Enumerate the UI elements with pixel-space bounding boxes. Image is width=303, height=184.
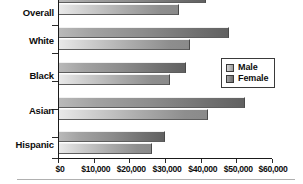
y-axis-tick — [52, 53, 58, 54]
earnings-bar-chart: Overall White Black Asian Hispanic $0 $1… — [0, 0, 303, 184]
legend-label-male: Male — [238, 63, 258, 72]
y-axis-tick — [52, 137, 58, 138]
bar-overall-male — [59, 4, 179, 15]
y-axis-tick — [52, 81, 58, 82]
x-axis-tick — [272, 159, 273, 163]
bar-asian-male — [59, 109, 208, 120]
x-axis-label-20000: $20,000 — [117, 165, 146, 174]
bar-white-male — [59, 39, 190, 50]
chart-legend: Male Female — [221, 58, 275, 88]
x-axis-tick — [236, 159, 237, 163]
bar-white-female — [59, 27, 229, 38]
legend-label-female: Female — [238, 74, 268, 83]
category-label-asian: Asian — [29, 106, 54, 116]
legend-item-female: Female — [226, 73, 268, 84]
category-label-hispanic: Hispanic — [16, 140, 54, 150]
legend-item-male: Male — [226, 62, 268, 73]
y-axis-tick — [52, 25, 58, 26]
x-axis-label-0: $0 — [56, 165, 65, 174]
x-axis-label-60000: $60,000 — [259, 165, 288, 174]
x-axis-label-40000: $40,000 — [188, 165, 217, 174]
category-label-overall: Overall — [23, 8, 54, 18]
x-axis-label-50000: $50,000 — [224, 165, 253, 174]
x-axis-label-10000: $10,000 — [81, 165, 110, 174]
bar-overall-female — [59, 0, 206, 3]
x-axis-tick — [201, 159, 202, 163]
legend-swatch-male-icon — [226, 64, 234, 72]
bar-hispanic-female — [59, 131, 165, 142]
category-label-black: Black — [29, 71, 54, 81]
bar-black-male — [59, 74, 170, 85]
x-axis-tick — [165, 159, 166, 163]
plot-area: Overall White Black Asian Hispanic $0 $1… — [0, 0, 303, 160]
x-axis-tick — [94, 159, 95, 163]
x-axis-tick — [129, 159, 130, 163]
bar-black-female — [59, 62, 186, 73]
footer-divider — [17, 179, 295, 180]
x-axis-tick — [58, 159, 59, 163]
bar-asian-female — [59, 97, 245, 108]
x-axis-label-30000: $30,000 — [153, 165, 182, 174]
bar-hispanic-male — [59, 143, 152, 154]
category-label-white: White — [29, 36, 54, 46]
legend-swatch-female-icon — [226, 75, 234, 83]
